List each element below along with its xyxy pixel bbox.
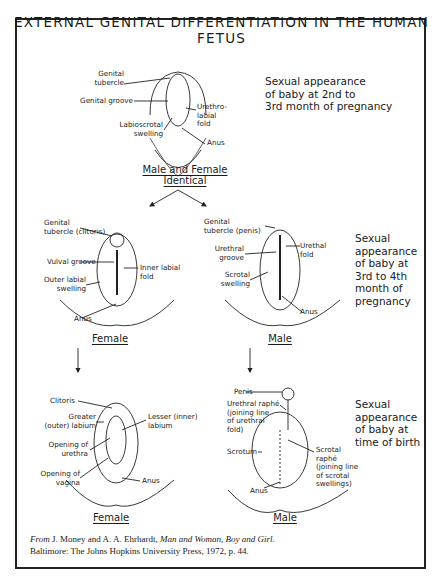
- citation-prefix: From: [30, 534, 50, 544]
- label-opening-urethra: Opening of urethra: [36, 441, 88, 458]
- heading-male-female-identical: Male and Female Identical: [120, 164, 250, 186]
- label-scrotum: Scrotum: [227, 448, 257, 457]
- label-genital-tubercle-penis: Genital tubercle (penis): [204, 218, 261, 235]
- heading-male-bottom: Male: [260, 512, 310, 523]
- label-urethro-labial-fold: Urethro- labial fold: [197, 103, 227, 129]
- caption-3rd-4th-month: Sexual appearance of baby at 3rd to 4th …: [355, 232, 417, 307]
- label-anus-bottom-female: Anus: [142, 477, 160, 486]
- label-lesser-labium: Lesser (inner) labium: [148, 413, 198, 430]
- caption-2nd-3rd-month: Sexual appearance of baby at 2nd to 3rd …: [265, 75, 392, 113]
- heading-female-middle: Female: [80, 333, 140, 344]
- citation-authors: J. Money and A. A. Ehrhardt,: [52, 534, 158, 544]
- label-labioscrotal-swelling: Labioscrotal swelling: [90, 121, 163, 138]
- label-urethral-raphe: Urethral raphé (joining line of urethral…: [227, 400, 279, 434]
- label-urethral-groove: Urethral groove: [200, 245, 244, 262]
- heading-male-middle: Male: [255, 333, 305, 344]
- citation: From J. Money and A. A. Ehrhardt, Man an…: [30, 533, 275, 557]
- label-scrotal-raphe: Scrotal raphé (joining line of scrotal s…: [316, 446, 358, 489]
- label-clitoris: Clitoris: [50, 397, 75, 406]
- label-greater-labium: Greater (outer) labium: [36, 413, 96, 430]
- label-inner-labial-fold: Inner labial fold: [140, 264, 180, 281]
- label-genital-tubercle: Genital tubercle: [82, 70, 124, 87]
- citation-line-1: From J. Money and A. A. Ehrhardt, Man an…: [30, 533, 275, 545]
- label-genital-groove: Genital groove: [70, 97, 133, 106]
- label-genital-tubercle-clitoris: Genital tubercle (clitoris): [44, 219, 105, 236]
- label-vulval-groove: Vulval groove: [47, 258, 96, 267]
- label-penis: Penis: [234, 388, 253, 397]
- heading-female-bottom: Female: [86, 512, 136, 523]
- citation-publisher: Baltimore: The Johns Hopkins University …: [30, 545, 275, 557]
- label-urethal-fold: Urethal fold: [300, 242, 326, 259]
- label-outer-labial-swelling: Outer labial swelling: [40, 276, 86, 293]
- label-opening-vagina: Opening of vagina: [36, 470, 80, 487]
- label-anus-top: Anus: [207, 139, 225, 148]
- caption-time-of-birth: Sexual appearance of baby at time of bir…: [355, 398, 420, 448]
- label-anus-middle-female: Anus: [74, 315, 92, 324]
- citation-book: Man and Woman, Boy and Girl.: [160, 534, 275, 544]
- label-anus-bottom-male: Anus: [250, 487, 268, 496]
- label-scrotal-swelling: Scrotal swelling: [206, 271, 250, 288]
- label-anus-middle-male: Anus: [300, 308, 318, 317]
